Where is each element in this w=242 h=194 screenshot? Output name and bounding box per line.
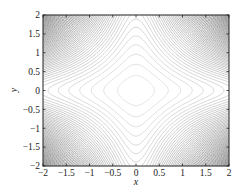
- y-tick-label: −1: [30, 124, 40, 134]
- y-tick-label: 0.5: [28, 67, 40, 77]
- x-tick-label: −0.5: [104, 168, 121, 178]
- contour-line: [91, 54, 180, 127]
- x-axis-label: x: [133, 176, 139, 187]
- x-tick-label: −1.5: [58, 168, 75, 178]
- contour-lines: [43, 15, 229, 166]
- y-tick-label: −2: [30, 161, 40, 171]
- y-tick-label: 2: [35, 10, 40, 20]
- contour-line: [43, 15, 229, 166]
- contour-line: [69, 36, 204, 145]
- x-tick-label: 0.5: [153, 168, 165, 178]
- contour-chart: −2−1.5−1−0.500.511.52 −2−1.5−1−0.500.511…: [0, 0, 242, 194]
- y-tick-label: −0.5: [23, 105, 40, 115]
- x-tick-label: 2: [227, 168, 232, 178]
- y-tick-label: 1: [35, 48, 40, 58]
- contour-line: [104, 64, 169, 116]
- y-axis-label: y: [8, 87, 19, 93]
- contour-line: [80, 45, 193, 136]
- x-tick-label: −1: [84, 168, 94, 178]
- contour-line: [117, 75, 154, 105]
- x-tick-label: 1: [180, 168, 185, 178]
- y-tick-label: 0: [35, 86, 40, 96]
- y-tick-label: 1.5: [28, 29, 40, 39]
- y-tick-label: −1.5: [23, 142, 40, 152]
- x-tick-label: 1.5: [200, 168, 212, 178]
- contour-line: [58, 27, 214, 153]
